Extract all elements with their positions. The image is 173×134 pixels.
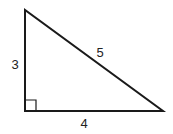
triangle-shape: [25, 10, 163, 111]
label-vertical-leg: 3: [11, 57, 18, 72]
label-hypotenuse: 5: [96, 45, 103, 60]
right-triangle-diagram: 3 5 4: [0, 0, 173, 134]
label-horizontal-leg: 4: [80, 116, 87, 131]
right-angle-marker: [25, 100, 36, 111]
